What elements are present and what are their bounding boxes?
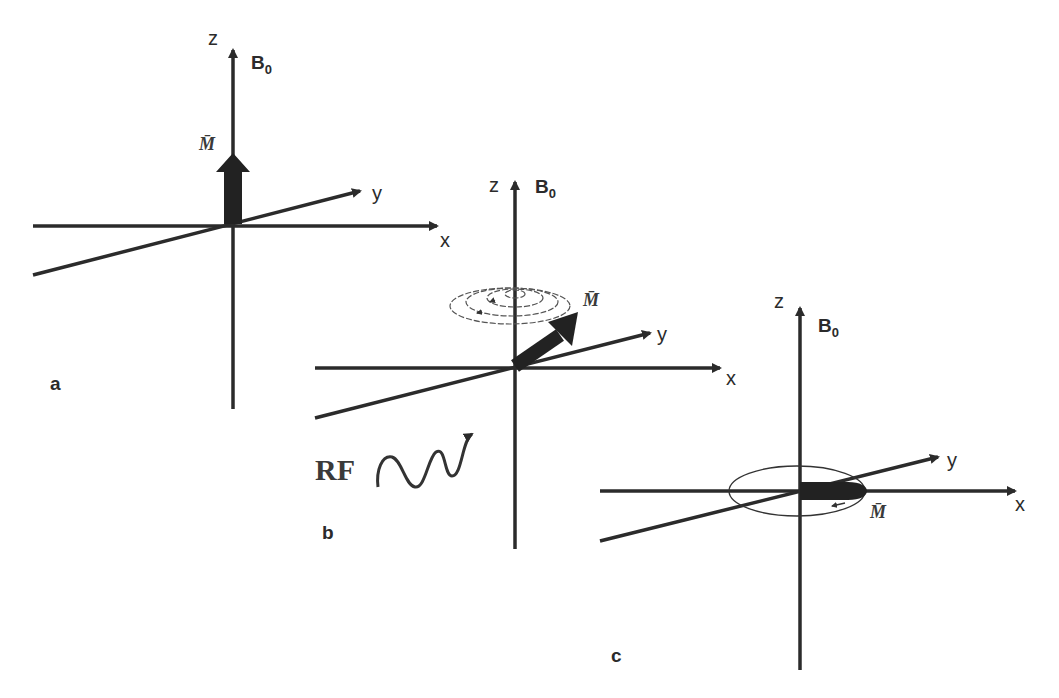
y-axis-c: [600, 457, 938, 541]
b0-label-b: B0: [535, 176, 556, 201]
y-label-c: y: [947, 449, 957, 471]
figure-canvas: z B0 y x M̄ a z B0 M̄ y x RF b: [0, 0, 1059, 698]
x-label-a: x: [440, 229, 450, 251]
x-label-b: x: [726, 367, 736, 389]
panel-c: z B0 y x M̄ c: [600, 290, 1025, 670]
x-label-c: x: [1015, 493, 1025, 515]
panel-a: z B0 y x M̄ a: [33, 27, 450, 409]
y-axis-b: [315, 333, 650, 418]
rotation-arrow-icon: [832, 503, 845, 506]
b0-label-c: B0: [818, 315, 839, 340]
m-label-b: M̄: [582, 290, 600, 310]
magnetization-vector-a: [216, 153, 250, 224]
z-label-a: z: [208, 27, 218, 49]
b0-label-a: B0: [251, 52, 272, 77]
y-label-a: y: [372, 182, 382, 204]
magnetization-vector-c: [800, 482, 867, 500]
m-label-c: M̄: [869, 502, 887, 522]
z-label-c: z: [774, 290, 784, 312]
panel-label-a: a: [50, 373, 61, 394]
z-label-b: z: [489, 174, 499, 196]
precession-spiral-icon: [450, 288, 570, 324]
rf-label: RF: [315, 453, 355, 486]
rf-wave-icon: [378, 434, 472, 487]
panel-label-b: b: [322, 522, 334, 543]
y-axis-a: [33, 191, 360, 275]
y-label-b: y: [657, 323, 667, 345]
m-label-a: M̄: [198, 134, 216, 154]
panel-label-c: c: [611, 645, 622, 666]
